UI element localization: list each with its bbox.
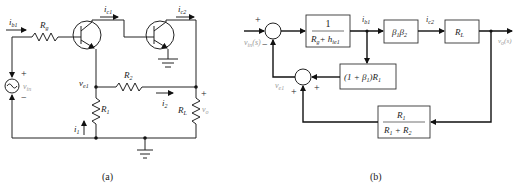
- resistor-rg: [32, 33, 58, 41]
- resistor-r1: [92, 98, 100, 124]
- divider-denominator: R1 + R2: [383, 125, 412, 136]
- summing-junction-1: [265, 23, 281, 39]
- block-diagram: + vin(s) − 1 Rg+ hie1 ib1 β1β2 ic2 RL vo…: [244, 14, 512, 183]
- ground-symbol-q2: [158, 59, 178, 67]
- caption-b: (b): [370, 171, 382, 183]
- input-label: vin(s): [244, 38, 261, 48]
- transistor-q1: [73, 21, 101, 49]
- rl-label: RL: [177, 105, 188, 116]
- resistor-rl: [192, 98, 200, 124]
- r1-label: R1: [100, 104, 110, 115]
- ve1-signal-label: ve1: [275, 81, 284, 91]
- output-label: vo(s): [498, 37, 512, 46]
- vo-label: vo: [202, 105, 209, 115]
- resistor-r2: [116, 83, 142, 91]
- ground-symbol-main: [137, 150, 153, 158]
- sum2-plus-b: +: [291, 86, 297, 97]
- emitter-block-label: (1 + β1)R1: [344, 72, 381, 83]
- rg-label: Rg: [39, 20, 49, 31]
- ic1-label: ic1: [104, 4, 112, 15]
- transistor-q2: [140, 21, 174, 49]
- summing-junction-2: [295, 69, 311, 85]
- ic2-label: ic2: [178, 4, 186, 15]
- ib1-signal-label: ib1: [362, 15, 370, 25]
- i1-label: i1: [74, 124, 80, 135]
- circuit-schematic: ib1 Rg ic1: [5, 4, 209, 183]
- i2-label: i2: [162, 98, 168, 109]
- ac-source-vin: [5, 79, 19, 93]
- vin-label: vin: [23, 82, 31, 92]
- right-wire: [166, 20, 196, 87]
- caption-a: (a): [102, 171, 113, 183]
- vin-plus: +: [21, 68, 27, 79]
- vin-minus: −: [21, 92, 27, 103]
- sum1-minus: −: [262, 39, 268, 50]
- sum2-plus-a: +: [314, 82, 320, 93]
- gain1-numerator: 1: [326, 18, 331, 29]
- vo-plus: +: [201, 88, 207, 99]
- ib1-label: ib1: [9, 17, 18, 28]
- sum1-plus: +: [255, 14, 261, 25]
- figure-canvas: ib1 Rg ic1: [0, 0, 522, 190]
- ic2-signal-label: ic2: [426, 15, 434, 25]
- ve1-label: ve1: [79, 78, 89, 89]
- r2-label: R2: [123, 70, 133, 81]
